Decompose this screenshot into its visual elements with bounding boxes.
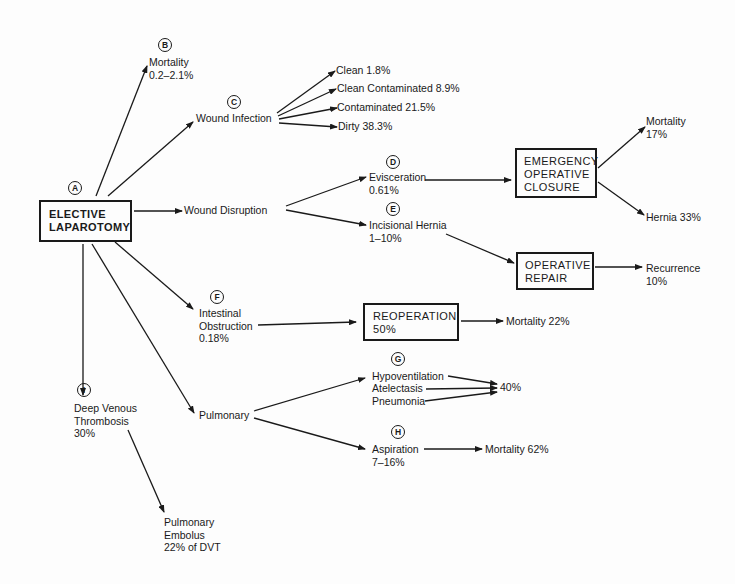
badge-f: F <box>210 290 224 304</box>
atelectasis[interactable]: Atelectasis <box>372 382 423 395</box>
arrow-root-to-pulmonary <box>92 244 194 413</box>
badge-i: I <box>77 383 91 397</box>
badge-b: B <box>158 38 172 52</box>
embolus-line1: Pulmonary <box>164 516 221 529</box>
dvt-line1: Deep Venous <box>74 402 137 415</box>
pneumonia[interactable]: Pneumonia <box>372 395 425 408</box>
dvt-line2: Thrombosis <box>74 415 137 428</box>
arrow-root-to-mortality <box>96 66 147 196</box>
aspiration-value: 7–16% <box>372 456 419 469</box>
arrow-disruption-evisceration <box>286 177 366 206</box>
operative-repair-box[interactable]: OPERATIVE REPAIR <box>516 252 594 290</box>
arrow-closure-hernia <box>598 182 644 215</box>
arrow-pneumonia-40 <box>425 392 497 401</box>
closure-hernia-node[interactable]: Hernia 33% <box>646 211 701 224</box>
dvt-line3: 30% <box>74 427 137 440</box>
badge-a: A <box>68 181 82 195</box>
badge-d: D <box>386 155 400 169</box>
repair-line2: REPAIR <box>525 272 585 285</box>
root-line1: ELECTIVE <box>49 208 122 221</box>
intestinal-obstruction-node[interactable]: Intestinal Obstruction 0.18% <box>199 307 253 345</box>
badge-g: G <box>391 352 405 366</box>
closure-line3: CLOSURE <box>524 181 588 194</box>
arrow-atelectasis-40 <box>426 388 497 389</box>
wound-infection-node[interactable]: Wound Infection <box>196 112 272 125</box>
infection-dirty[interactable]: Dirty 38.3% <box>338 120 392 133</box>
wound-disruption-node[interactable]: Wound Disruption <box>184 204 267 217</box>
obstruction-line1: Intestinal <box>199 307 253 320</box>
arrow-disruption-hernia <box>286 210 366 225</box>
arrow-pulmonary-to-aspiration <box>254 418 365 449</box>
emergency-operative-closure-box[interactable]: EMERGENCY OPERATIVE CLOSURE <box>515 148 597 198</box>
aspiration-node[interactable]: Aspiration 7–16% <box>372 443 419 468</box>
arrow-infection-clean-contaminated <box>278 89 336 116</box>
closure-mortality-value: 17% <box>646 128 686 141</box>
recurrence-label: Recurrence <box>646 262 700 275</box>
incisional-hernia-node[interactable]: Incisional Hernia 1–10% <box>369 219 447 244</box>
arrow-infection-dirty <box>279 123 337 127</box>
arrow-pulmonary-to-group-g <box>254 378 365 411</box>
embolus-line3: 22% of DVT <box>164 541 221 554</box>
evisceration-value: 0.61% <box>369 184 426 197</box>
dvt-node[interactable]: Deep Venous Thrombosis 30% <box>74 402 137 440</box>
arrow-closure-mortality <box>598 127 645 168</box>
incisional-hernia-label: Incisional Hernia <box>369 219 447 232</box>
pulmonary-embolus-node[interactable]: Pulmonary Embolus 22% of DVT <box>164 516 221 554</box>
obstruction-line2: Obstruction <box>199 320 253 333</box>
repair-line1: OPERATIVE <box>525 259 585 272</box>
embolus-line2: Embolus <box>164 529 221 542</box>
closure-line1: EMERGENCY <box>524 155 588 168</box>
arrow-obstruction-to-reoperation <box>258 322 356 325</box>
badge-e: E <box>386 202 400 216</box>
evisceration-label: Evisceration <box>369 171 426 184</box>
mortality-label: Mortality <box>149 56 193 69</box>
reoperation-box[interactable]: REOPERATION 50% <box>363 303 459 341</box>
group-g-rate: 40% <box>500 381 521 394</box>
reoperation-mortality[interactable]: Mortality 22% <box>506 315 570 328</box>
arrow-dvt-to-embolus <box>128 430 164 512</box>
root-elective-laparotomy-box[interactable]: ELECTIVE LAPAROTOMY <box>39 200 132 242</box>
incisional-hernia-value: 1–10% <box>369 232 447 245</box>
arrow-infection-clean <box>277 71 335 113</box>
diagram-canvas: A ELECTIVE LAPAROTOMY B Mortality 0.2–2.… <box>0 0 735 584</box>
mortality-value: 0.2–2.1% <box>149 69 193 82</box>
reoperation-line2: 50% <box>373 323 449 336</box>
mortality-node[interactable]: Mortality 0.2–2.1% <box>149 56 193 81</box>
infection-clean[interactable]: Clean 1.8% <box>336 64 390 77</box>
closure-mortality-node[interactable]: Mortality 17% <box>646 115 686 140</box>
infection-contaminated[interactable]: Contaminated 21.5% <box>337 101 435 114</box>
hypoventilation[interactable]: Hypoventilation <box>372 370 444 383</box>
closure-mortality-label: Mortality <box>646 115 686 128</box>
recurrence-node[interactable]: Recurrence 10% <box>646 262 700 287</box>
reoperation-line1: REOPERATION <box>373 310 449 323</box>
badge-c: C <box>227 95 241 109</box>
obstruction-line3: 0.18% <box>199 332 253 345</box>
root-line2: LAPAROTOMY <box>49 221 122 234</box>
arrow-infection-contaminated <box>279 108 337 119</box>
aspiration-mortality[interactable]: Mortality 62% <box>485 443 549 456</box>
arrow-hernia-to-repair <box>446 234 514 263</box>
closure-line2: OPERATIVE <box>524 168 588 181</box>
pulmonary-node[interactable]: Pulmonary <box>199 409 249 422</box>
arrow-hypoventilation-40 <box>448 376 497 384</box>
badge-h: H <box>391 425 405 439</box>
arrow-root-to-obstruction <box>115 242 193 309</box>
infection-clean-contaminated[interactable]: Clean Contaminated 8.9% <box>337 82 460 95</box>
evisceration-node[interactable]: Evisceration 0.61% <box>369 171 426 196</box>
recurrence-value: 10% <box>646 275 700 288</box>
aspiration-label: Aspiration <box>372 443 419 456</box>
